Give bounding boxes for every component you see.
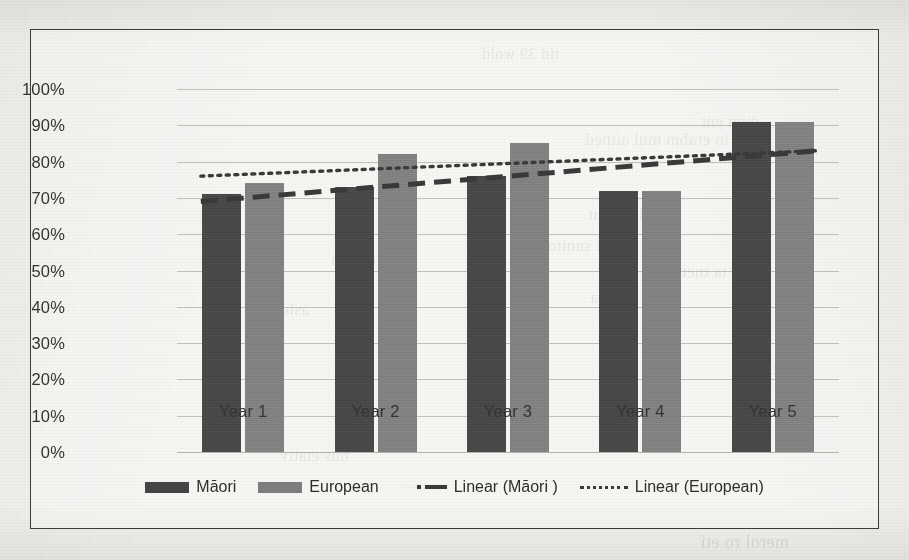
y-axis-tick-label: 80% — [0, 152, 65, 171]
legend-dashed-line-icon — [401, 485, 447, 489]
legend-label: Linear (European) — [635, 478, 764, 496]
x-axis-tick-label: Year 5 — [707, 402, 839, 421]
legend-item-linear-maori[interactable]: Linear (Māori ) — [401, 478, 558, 496]
y-axis-tick-label: 50% — [0, 261, 65, 280]
bar-group — [442, 89, 574, 452]
legend-item-linear-european[interactable]: Linear (European) — [580, 478, 764, 496]
y-axis-tick-label: 60% — [0, 225, 65, 244]
bar-group — [707, 89, 839, 452]
y-axis-tick-label: 70% — [0, 188, 65, 207]
legend-item-european[interactable]: European — [258, 478, 378, 496]
y-axis-tick-label: 30% — [0, 334, 65, 353]
chart-frame: 100%90%80%70%60%50%40%30%20%10%0% Year 1… — [30, 29, 879, 529]
legend-swatch-european-icon — [258, 482, 302, 493]
y-axis-tick-label: 10% — [0, 406, 65, 425]
x-axis-tick-label: Year 1 — [177, 402, 309, 421]
x-axis-tick-label: Year 4 — [574, 402, 706, 421]
y-axis-tick-label: 100% — [0, 80, 65, 99]
x-axis-tick-label: Year 3 — [442, 402, 574, 421]
bar-group — [309, 89, 441, 452]
chart-legend: Māori European Linear (Māori ) Linear (E… — [31, 478, 878, 496]
gridline — [177, 452, 839, 453]
bar-group — [574, 89, 706, 452]
plot-area — [177, 89, 839, 452]
x-axis-tick-label: Year 2 — [309, 402, 441, 421]
legend-swatch-maori-icon — [145, 482, 189, 493]
legend-dotted-line-icon — [580, 486, 628, 489]
y-axis-tick-label: 90% — [0, 116, 65, 135]
legend-item-maori[interactable]: Māori — [145, 478, 236, 496]
y-axis-tick-label: 40% — [0, 297, 65, 316]
legend-label: Māori — [196, 478, 236, 496]
bar-group — [177, 89, 309, 452]
legend-label: Linear (Māori ) — [454, 478, 558, 496]
legend-label: European — [309, 478, 378, 496]
y-axis-tick-label: 0% — [0, 443, 65, 462]
y-axis-tick-label: 20% — [0, 370, 65, 389]
